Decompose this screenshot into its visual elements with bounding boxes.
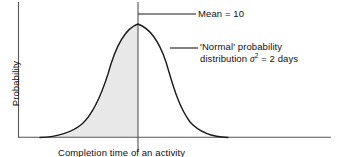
distribution-plot-svg bbox=[0, 0, 338, 157]
shaded-area-left-of-mean bbox=[48, 24, 138, 137]
distribution-annotation-label: 'Normal' probabilitydistribution σ2 = 2 … bbox=[200, 41, 332, 65]
x-axis-title: Completion time of an activity bbox=[58, 147, 185, 157]
distribution-annotation-suffix: = 2 days bbox=[258, 53, 298, 64]
mean-annotation-label: Mean = 10 bbox=[198, 8, 244, 20]
normal-distribution-figure: Mean = 10 'Normal' probabilitydistributi… bbox=[0, 0, 338, 157]
y-axis-title: Probability bbox=[10, 44, 21, 124]
distribution-annotation-prefix: distribution bbox=[200, 53, 250, 64]
distribution-annotation-line1: 'Normal' probability bbox=[200, 41, 282, 52]
